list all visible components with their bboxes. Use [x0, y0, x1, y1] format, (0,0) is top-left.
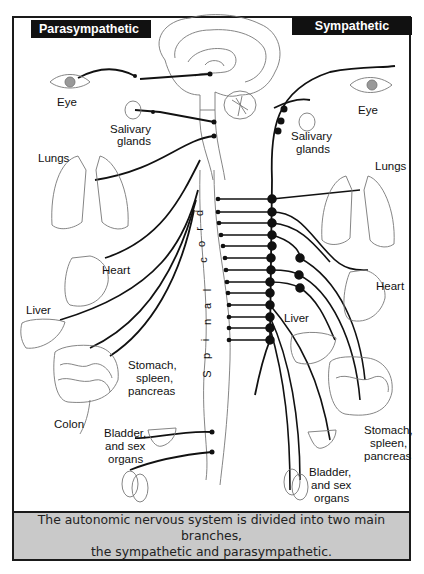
spinal-cord-outline	[200, 170, 230, 485]
spinal-cord-letter: p	[200, 353, 212, 359]
spinal-cord-letter: l	[201, 289, 213, 291]
label-left-stomach-1: Stomach,	[128, 359, 177, 372]
right-intestine-icon	[329, 357, 393, 415]
label-right-stomach-3: pancreas	[364, 450, 411, 463]
label-left-stomach-2: spleen,	[136, 372, 173, 385]
label-right-salivary-1: Salivary	[291, 130, 332, 143]
spinal-cord-letter: n	[201, 319, 213, 325]
label-left-eye: Eye	[57, 96, 77, 109]
brain-icon	[159, 15, 280, 180]
spinal-cord-letter: r	[193, 227, 205, 231]
nervous-system-illustration	[0, 0, 424, 574]
right-liver-icon	[291, 332, 336, 364]
label-right-liver: Liver	[284, 312, 309, 325]
right-bladder-icon	[308, 430, 336, 448]
label-right-bladder-1: Bladder,	[309, 466, 351, 479]
label-left-heart: Heart	[102, 264, 130, 277]
label-left-salivary-2: glands	[117, 135, 151, 148]
right-salivary-gland-icon	[299, 113, 315, 131]
label-left-lungs: Lungs	[38, 152, 69, 165]
label-right-salivary-2: glands	[296, 143, 330, 156]
label-right-bladder-2: and sex	[311, 479, 351, 492]
label-right-stomach-1: Stomach,	[364, 424, 413, 437]
label-right-heart: Heart	[376, 280, 404, 293]
left-lungs-icon	[52, 156, 128, 229]
spinal-cord-letter: d	[193, 210, 205, 216]
label-left-bladder-3: organs	[108, 453, 143, 466]
label-left-colon: Colon	[54, 418, 84, 431]
sympathetic-ganglia	[275, 106, 288, 135]
spinal-cord-letter: S	[201, 370, 213, 377]
caption-line-1: The autonomic nervous system is divided …	[22, 512, 401, 544]
label-right-bladder-3: organs	[314, 492, 349, 505]
spinal-cord-letter: o	[195, 241, 207, 247]
label-right-lungs: Lungs	[375, 160, 406, 173]
label-left-bladder-2: and sex	[105, 440, 145, 453]
right-lungs-icon	[322, 176, 394, 247]
spinal-cord-letter: c	[197, 257, 209, 263]
caption-line-2: the sympathetic and parasympathetic.	[22, 544, 401, 560]
label-right-eye: Eye	[358, 104, 378, 117]
label-left-liver: Liver	[26, 304, 51, 317]
sympathetic-header: Sympathetic	[292, 17, 412, 35]
label-left-stomach-3: pancreas	[128, 385, 175, 398]
left-liver-icon	[21, 319, 65, 348]
right-heart-icon	[344, 270, 385, 321]
figure-caption: The autonomic nervous system is divided …	[12, 511, 411, 561]
parasympathetic-header: Parasympathetic	[31, 20, 151, 38]
spinal-cord-letter: i	[199, 339, 211, 341]
spinal-cord-letter: a	[201, 303, 213, 309]
label-left-bladder-1: Bladder,	[104, 427, 146, 440]
left-intestine-icon	[54, 345, 118, 402]
sympathetic-nerves	[270, 190, 368, 490]
label-right-stomach-2: spleen,	[370, 437, 407, 450]
